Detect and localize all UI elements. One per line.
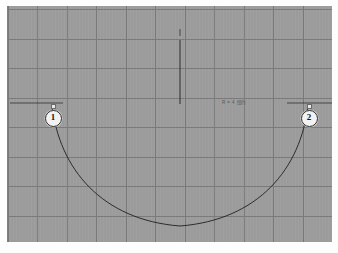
endpoint-marker-2[interactable]: 2 [301, 110, 318, 127]
drawing-viewport: 1 2 R = 4 纽约 [0, 0, 338, 253]
endpoint-marker-1[interactable]: 1 [45, 110, 62, 127]
guide-lines [10, 29, 332, 104]
catenary-curve[interactable] [52, 105, 308, 226]
endpoint-node-1[interactable] [51, 104, 56, 109]
drawing-canvas[interactable]: 1 2 R = 4 纽约 [7, 6, 332, 242]
endpoint-node-2[interactable] [307, 104, 312, 109]
dimension-annotation: R = 4 纽约 [222, 99, 245, 105]
